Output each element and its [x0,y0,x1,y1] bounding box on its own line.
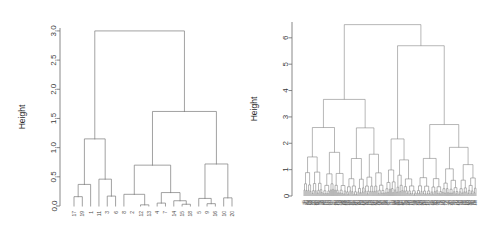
left-dendrogram-svg: 0.00.51.01.52.02.53.0Height1719111368212… [0,0,240,244]
leaf-label: 16 [212,211,218,217]
dendrogram-branch [432,194,433,196]
dendrogram-branch [367,194,368,196]
dendrogram-branch [329,152,339,173]
dendrogram-branch [471,178,476,188]
dendrogram-branch [370,191,371,196]
dendrogram-branch [454,192,455,196]
dendrogram-branch [385,193,386,196]
dendrogram-branch [380,185,383,190]
y-axis-tick-label: 4 [282,88,291,93]
dendrogram-branch [367,177,372,186]
leaf-label: 444 [474,200,478,205]
dendrogram-branch [425,186,429,191]
dendrogram-branch [124,194,145,206]
dendrogram-branch [306,173,310,185]
dendrogram-branch [450,189,452,193]
y-axis: 0.00.51.01.52.02.53.0 [50,25,61,212]
dendrogram-branch [366,186,369,191]
leaf-label: 12 [138,211,144,217]
dendrogram-branch [354,194,355,196]
dendrogram-branch [349,179,354,187]
dendrogram-branch [427,194,428,196]
dendrogram-branches [74,31,232,206]
dendrogram-branch [352,192,353,196]
dendrogram-branch [365,191,366,196]
dendrogram-branch [375,186,377,191]
dendrogram-branch [387,182,390,189]
dendrogram-branch [207,204,215,206]
dendrogram-branch [308,157,318,173]
dendrogram-branch [348,194,349,196]
dendrogram-branch [412,193,413,196]
leaf-label-band: 8578971201858220778853100125522744027896… [302,200,478,205]
leaf-label: 13 [146,211,152,217]
leaf-label: 15 [179,211,185,217]
dendrogram-branch [388,170,393,182]
dendrogram-branch [410,186,414,191]
dendrogram-branch [371,186,373,191]
leaf-label: 3 [104,211,110,214]
dendrogram-branch [464,192,465,196]
y-axis: 0123456 [282,22,293,198]
dendrogram-branch [157,203,165,206]
dendrogram-branch [174,201,186,206]
dendrogram-branch [340,193,341,196]
leaf-label: 10 [221,211,227,217]
leaf-label: 1 [88,211,94,214]
dendrogram-branch [199,198,211,206]
dendrogram-branch [414,195,415,196]
leaf-label: 19 [79,211,85,217]
dendrogram-branch [372,191,373,196]
dendrogram-branch [448,193,449,196]
dendrogram-branch [344,25,421,100]
dendrogram-branch [437,193,438,196]
dendrogram-branch [335,190,336,196]
dendrogram-branch [335,185,337,190]
y-axis-tick-label: 1.0 [50,142,59,154]
leaf-label: 2 [129,211,135,214]
y-axis-tick-label: 2 [282,140,291,145]
dendrogram-branch [433,179,438,187]
dendrogram-branch [324,191,326,194]
dendrogram-branch [442,192,443,196]
dendrogram-branch [356,194,357,196]
dendrogram-branch [342,193,343,196]
y-axis-tick-label: 1 [282,167,291,172]
dendrogram-branch [466,192,467,196]
y-axis-tick-label: 1.5 [50,112,59,124]
dendrogram-branch [359,179,363,188]
dendrogram-branch [317,193,318,196]
dendrogram-branch [444,183,447,189]
dendrogram-branch [423,193,424,196]
dendrogram-branch [351,159,361,180]
dendrogram-branch [449,147,468,168]
y-axis-title: Height [249,96,259,121]
y-axis-tick-label: 3 [282,114,291,119]
dendrogram-branch [421,191,422,196]
dendrogram-branch [305,184,307,191]
leaf-label: 18 [187,211,193,217]
dendrogram-branch [352,186,355,192]
dendrogram-branch [389,189,390,196]
dendrogram-branch [397,192,398,196]
leaf-label: 14 [171,211,177,217]
dendrogram-branch [107,196,115,206]
dendrogram-branch [404,191,405,196]
right-dendrogram-svg: 0123456Height857897120185822077885310012… [240,0,481,244]
leaf-label: 5 [196,211,202,214]
y-axis-tick-label: 5 [282,61,291,66]
dendrogram-branches [304,25,476,196]
dendrogram-branch [468,193,469,196]
dendrogram-branch [407,193,408,196]
dendrogram-branch [369,154,378,177]
dendrogram-branch [321,193,322,196]
dendrogram-branch [383,193,384,196]
dendrogram-branch [134,165,170,194]
dendrogram-branch [454,188,457,192]
dendrogram-branch [378,194,379,196]
dendrogram-branch [420,178,427,187]
dendrogram-branch [331,184,333,190]
dendrogram-branch [356,128,374,159]
y-axis-title: Height [17,104,27,129]
dendrogram-branch [313,184,315,191]
